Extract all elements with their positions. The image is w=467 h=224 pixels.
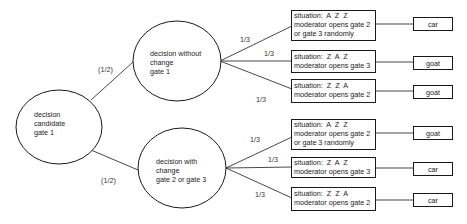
situation-line: situation: Z Z A	[294, 81, 348, 90]
result-box: car	[414, 18, 453, 31]
probability-outcome: 1/3	[264, 49, 274, 58]
situation-line: situation: A Z Z	[294, 11, 348, 20]
result-label: goat	[426, 59, 440, 68]
probability-outcome: 1/3	[255, 190, 265, 199]
decision-without-change-node: decision without change gate 1	[133, 21, 221, 101]
situation-line: situation: A Z Z	[294, 120, 348, 129]
result-label: goat	[426, 129, 440, 138]
result-box: goat	[414, 127, 453, 140]
result-box: car	[414, 163, 453, 176]
result-box: car	[414, 194, 453, 207]
result-label: goat	[426, 88, 440, 97]
edge-root-to-change	[91, 150, 138, 170]
result-box: goat	[414, 86, 453, 99]
situation-line: moderator opens gate 2	[294, 198, 370, 207]
situation-line: or gate 3 randomly	[294, 29, 354, 38]
no-change-label-line-1: decision without	[150, 49, 201, 58]
probability-outcome: 1/3	[250, 135, 260, 144]
situation-box: situation: A Z Z moderator opens gate 2 …	[292, 120, 376, 150]
change-label-line-2: change	[156, 166, 180, 175]
root-label-line-2: candidate	[34, 119, 65, 128]
situation-box: situation: Z Z A moderator opens gate 2	[292, 188, 376, 211]
situation-line: moderator opens gate 3	[294, 61, 370, 70]
result-box: goat	[414, 57, 453, 70]
decision-tree-diagram: decision candidate gate 1 decision witho…	[0, 0, 467, 224]
result-label: car	[428, 196, 439, 205]
situation-box: situation: Z Z A moderator opens gate 2	[292, 80, 376, 103]
situation-box: situation: Z A Z moderator opens gate 3	[292, 51, 376, 73]
situation-line: situation: Z Z A	[294, 189, 348, 198]
probability-outcome: 1/3	[256, 95, 266, 104]
result-label: car	[428, 20, 439, 29]
probability-change: (1/2)	[101, 176, 116, 185]
situation-line: or gate 3 randomly	[294, 138, 354, 147]
decision-with-change-node: decision with change gate 2 or gate 3	[138, 128, 226, 208]
edge-change-outcome-2	[226, 167, 292, 168]
result-label: car	[428, 165, 439, 174]
situation-box: situation: A Z Z moderator opens gate 2 …	[292, 11, 376, 41]
probability-outcome: 1/3	[268, 155, 278, 164]
probability-no-change: (1/2)	[98, 65, 113, 74]
change-label-line-3: gate 2 or gate 3	[156, 175, 206, 184]
situation-line: situation: Z A Z	[294, 52, 348, 61]
no-change-label-line-2: change	[150, 58, 174, 67]
edge-no-change-outcome-3	[220, 61, 292, 89]
root-label-line-3: gate 1	[34, 128, 54, 137]
situation-line: moderator opens gate 3	[294, 167, 370, 176]
edge-no-change-outcome-1	[220, 26, 292, 61]
situation-box: situation: Z A Z moderator opens gate 3	[292, 158, 376, 178]
no-change-label-line-3: gate 1	[150, 67, 170, 76]
probability-outcome: 1/3	[240, 35, 250, 44]
situation-line: situation: Z A Z	[294, 158, 348, 167]
situation-line: moderator opens gate 2	[294, 20, 370, 29]
root-node: decision candidate gate 1	[16, 90, 102, 164]
change-label-line-1: decision with	[156, 157, 197, 166]
root-label-line-1: decision	[34, 110, 60, 119]
situation-line: moderator opens gate 2	[294, 90, 370, 99]
situation-line: moderator opens gate 2	[294, 129, 370, 138]
